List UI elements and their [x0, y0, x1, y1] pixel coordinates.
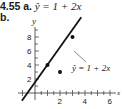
- y-tick-label-8: 8: [27, 33, 32, 42]
- annotation-arrow: [74, 51, 86, 62]
- data-point: [71, 35, 75, 39]
- regression-annotation: ŷ = 1 + 2x: [71, 63, 110, 73]
- regression-line: [22, 17, 81, 101]
- scatter-chart: 2 4 6 2 4 6 8 y x ŷ = 1 + 2x: [0, 0, 122, 109]
- x-axis-label: x: [116, 89, 121, 97]
- x-tick-label-4: 4: [83, 97, 88, 106]
- y-tick-label-4: 4: [27, 61, 32, 70]
- y-tick-label-2: 2: [27, 75, 32, 84]
- y-axis-label: y: [31, 16, 36, 26]
- x-tick-label-6: 6: [108, 97, 113, 106]
- data-point: [58, 70, 62, 74]
- y-tick-label-6: 6: [27, 47, 32, 56]
- x-tick-label-2: 2: [58, 97, 63, 106]
- data-point: [46, 63, 50, 67]
